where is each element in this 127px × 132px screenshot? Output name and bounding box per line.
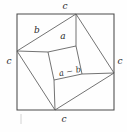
- label-left-side: c: [6, 56, 11, 66]
- connector-right: [82, 73, 114, 74]
- connector-bottom: [54, 80, 55, 110]
- label-bottom-side: c: [61, 114, 66, 124]
- pythagorean-figure: c c c c b a a − b: [0, 0, 127, 132]
- figure-canvas: c c c c b a a − b: [0, 0, 127, 132]
- triangle-hypotenuse-bottom-right: [55, 73, 114, 110]
- label-right-side: c: [117, 56, 122, 66]
- connector-left: [17, 51, 48, 52]
- label-top-side: c: [62, 1, 67, 11]
- label-inner-square: a − b: [58, 64, 82, 78]
- triangle-hypotenuse-top-right: [76, 14, 114, 73]
- label-leg-a: a: [60, 31, 65, 41]
- label-leg-b: b: [34, 25, 40, 35]
- triangle-hypotenuse-top-left: [17, 14, 76, 51]
- outer-square: [17, 14, 114, 110]
